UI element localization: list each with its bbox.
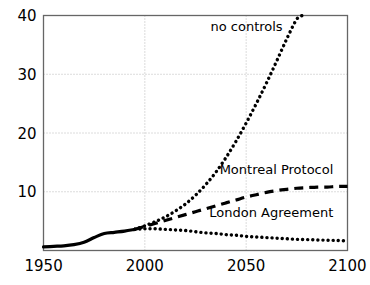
line-chart: 10203040 1950200020502100 no controlsMon… bbox=[0, 0, 370, 285]
x-tick-label: 2000 bbox=[126, 257, 164, 275]
x-tick-label: 2100 bbox=[328, 257, 366, 275]
series-label: no controls bbox=[210, 19, 282, 34]
x-tick-label: 1950 bbox=[25, 257, 63, 275]
y-tick-label: 10 bbox=[17, 183, 36, 201]
y-tick-label: 30 bbox=[17, 66, 36, 84]
chart-container: 10203040 1950200020502100 no controlsMon… bbox=[0, 0, 370, 285]
chart-background bbox=[0, 0, 370, 285]
series-label: London Agreement bbox=[209, 205, 333, 220]
y-tick-label: 20 bbox=[17, 125, 36, 143]
x-tick-label: 2050 bbox=[227, 257, 265, 275]
y-tick-label: 40 bbox=[17, 7, 36, 25]
series-label: Montreal Protocol bbox=[220, 162, 334, 177]
